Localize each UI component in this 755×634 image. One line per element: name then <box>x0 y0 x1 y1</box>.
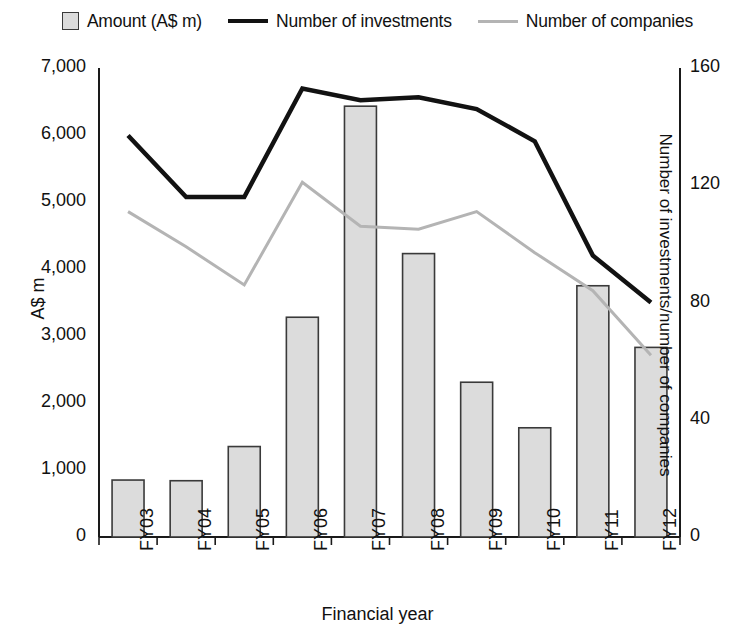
x-tick-fy10: FY10 <box>544 508 565 551</box>
x-tick-fy03: FY03 <box>137 508 158 551</box>
y-left-tick-3000: 3,000 <box>12 324 86 345</box>
y-right-tick-0: 0 <box>690 525 750 546</box>
x-tick-fy07: FY07 <box>369 508 390 551</box>
y-right-tick-40: 40 <box>690 408 750 429</box>
bar-fy07 <box>344 106 376 537</box>
x-tick-fy04: FY04 <box>195 508 216 551</box>
x-tick-fy05: FY05 <box>253 508 274 551</box>
y-right-tick-160: 160 <box>690 56 750 77</box>
y-left-tick-5000: 5,000 <box>12 190 86 211</box>
x-axis-title: Financial year <box>0 604 755 625</box>
y-left-tick-1000: 1,000 <box>12 458 86 479</box>
bar-series-amount <box>112 106 667 537</box>
x-tick-fy08: FY08 <box>428 508 449 551</box>
line-series-investments <box>128 89 651 303</box>
y-axis-right-title: Number of investments/number of companie… <box>655 95 675 515</box>
y-right-tick-120: 120 <box>690 173 750 194</box>
x-tick-fy11: FY11 <box>602 509 623 551</box>
y-left-tick-2000: 2,000 <box>12 391 86 412</box>
y-left-tick-0: 0 <box>12 525 86 546</box>
y-left-tick-6000: 6,000 <box>12 123 86 144</box>
y-left-tick-7000: 7,000 <box>12 56 86 77</box>
bar-fy06 <box>286 317 318 537</box>
y-right-tick-80: 80 <box>690 291 750 312</box>
bar-fy08 <box>403 254 435 537</box>
x-tick-fy12: FY12 <box>660 508 681 551</box>
chart-plot-area: A$ m Number of investments/number of com… <box>0 0 755 634</box>
y-left-tick-4000: 4,000 <box>12 257 86 278</box>
line-series-companies <box>128 182 651 355</box>
x-tick-fy06: FY06 <box>311 508 332 551</box>
bar-fy11 <box>577 286 609 537</box>
x-tick-fy09: FY09 <box>486 508 507 551</box>
